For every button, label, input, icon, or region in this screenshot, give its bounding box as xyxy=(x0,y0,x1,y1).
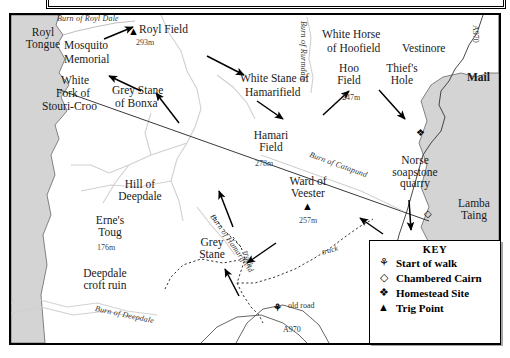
key-label-trig-point: Trig Point xyxy=(396,302,444,314)
royl-tongue-line2: Tongue xyxy=(26,38,60,50)
trig-point-ward-veester-icon: ▲ xyxy=(302,201,313,212)
label-burn-of-royl-dale: Burn of Royl Dale xyxy=(57,15,119,23)
key-item-chambered-cairn: ◇ Chambered Cairn xyxy=(370,270,500,285)
label-thiefs-hole: Thief's Hole xyxy=(380,63,424,86)
label-ward-height: 257m xyxy=(299,217,317,225)
label-fork-of: Fork of xyxy=(56,88,90,100)
arrow-down-quarry xyxy=(409,200,411,230)
arrow-to-thiefs-hole xyxy=(379,90,405,119)
label-a970-top: A970 xyxy=(471,25,479,43)
grey-stane-line1: Grey xyxy=(201,236,224,248)
ernes-line1: Erne's xyxy=(96,214,124,226)
hill-deepdale-line2: Deepdale xyxy=(118,190,161,202)
label-white: White xyxy=(61,75,89,87)
label-mail: Mail xyxy=(467,72,490,84)
label-royl-tongue: Royl Tongue xyxy=(17,27,69,50)
label-ward-of-veester: Ward of Veester xyxy=(276,176,340,199)
key-item-homestead-site: ❖ Homestead Site xyxy=(370,285,500,300)
key-title: KEY xyxy=(370,241,500,255)
top-caption-bar xyxy=(46,0,506,9)
key-label-chambered-cairn: Chambered Cairn xyxy=(396,272,482,284)
arrow-to-bonxa xyxy=(156,93,179,123)
lamba-line2: Taing xyxy=(461,209,487,221)
key-label-start-of-walk: Start of walk xyxy=(396,257,457,269)
key-item-trig-point: ▲ Trig Point xyxy=(370,300,500,315)
label-white-horse-1: White Horse xyxy=(322,29,380,41)
hamari-field-line1: Hamari xyxy=(254,129,288,141)
label-royl-field-height: 293m xyxy=(136,39,154,47)
arrow-to-white-stane xyxy=(257,101,283,119)
norse-line2: soapstone xyxy=(392,166,437,178)
homestead-site-norse-icon: ❖ xyxy=(416,128,425,138)
deepdale-croft-line1: Deepdale xyxy=(83,267,126,279)
arrow-from-royl-field xyxy=(207,56,244,75)
key-legend: KEY ⚘ Start of walk ◇ Chambered Cairn ❖ … xyxy=(369,240,501,344)
hamari-field-line2: Field xyxy=(259,141,283,153)
royl-tongue-line1: Royl xyxy=(32,26,54,38)
label-ernes-height: 176m xyxy=(97,244,115,252)
label-deepdale-croft-ruin: Deepdale croft ruin xyxy=(69,268,141,291)
label-ernes-toug: Erne's Toug xyxy=(83,215,137,238)
old-road-line xyxy=(236,305,329,343)
label-hill-of-deepdale: Hill of Deepdale xyxy=(108,179,172,202)
deepdale-croft-line2: croft ruin xyxy=(83,279,126,291)
start-of-walk-icon: ⚘ xyxy=(377,257,390,268)
ward-line1: Ward of xyxy=(289,175,326,187)
thiefs-hole-line2: Hole xyxy=(391,74,413,86)
label-a970-bottom: A970 xyxy=(283,326,301,334)
walking-tracks xyxy=(165,215,373,323)
label-hamari-field-height: 278m xyxy=(255,160,273,168)
grey-stane-line2: Stane xyxy=(199,248,225,260)
chambered-cairn-coast-icon: ◇ xyxy=(424,209,432,219)
chambered-cairn-icon: ◇ xyxy=(377,272,390,283)
label-white-stane-2: Hamarifield xyxy=(245,87,301,99)
label-vestinore: Vestinore xyxy=(402,43,445,55)
label-white-horse-2: of Hoofield xyxy=(327,43,380,55)
label-mosquito-memorial-2: Memorial xyxy=(64,54,109,66)
homestead-site-icon: ❖ xyxy=(377,287,390,298)
lamba-line1: Lamba xyxy=(458,197,490,209)
norse-line3: quarry xyxy=(400,177,430,189)
trig-point-icon: ▲ xyxy=(377,302,390,313)
label-norse-quarry: Norse soapstone quarry xyxy=(383,155,447,190)
trig-point-royl-field-icon: ▲ xyxy=(128,26,139,37)
label-grey-stane-of-bonxa-1: Grey Stane xyxy=(112,85,163,97)
hoo-field-line1: Hoo xyxy=(339,62,359,74)
key-item-start-of-walk: ⚘ Start of walk xyxy=(370,255,500,270)
label-mosquito-memorial-1: Mosquito xyxy=(64,40,108,52)
norse-line1: Norse xyxy=(401,154,428,166)
start-of-walk-marker-icon: ⚘ xyxy=(273,303,282,313)
label-old-road: old road xyxy=(288,302,314,310)
label-hoo-field-height: 247m xyxy=(342,94,360,102)
label-hamari-field: Hamari Field xyxy=(245,130,297,153)
thiefs-hole-line1: Thief's xyxy=(386,62,417,74)
label-royl-field: Royl Field xyxy=(139,24,188,36)
ernes-line2: Toug xyxy=(98,226,121,238)
hoo-field-line2: Field xyxy=(337,74,361,86)
ward-line2: Veester xyxy=(291,187,325,199)
label-grey-stane-of-bonxa-2: of Bonxa xyxy=(115,98,157,110)
label-burn-of-rurmdale: Burn of Rurmdale xyxy=(299,21,307,81)
label-hoo-field: Hoo Field xyxy=(331,63,367,86)
arrow-up-track-right xyxy=(360,218,383,234)
royl-tongue-sea xyxy=(11,15,69,343)
label-lamba-taing: Lamba Taing xyxy=(450,198,498,221)
key-label-homestead-site: Homestead Site xyxy=(396,287,469,299)
hill-deepdale-line1: Hill of xyxy=(125,178,155,190)
arrow-up-track-left xyxy=(225,269,239,296)
label-stouri-croo: Stouri-Croo xyxy=(42,101,97,113)
page-root: Royl Tongue Burn of Royl Dale ▲ Royl Fie… xyxy=(0,0,510,358)
